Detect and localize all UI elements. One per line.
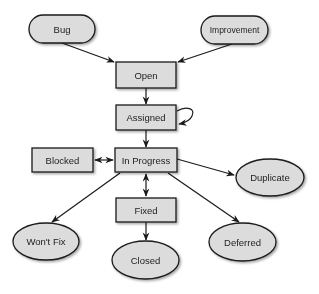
node-wont-fix: Won't Fix	[13, 223, 79, 260]
node-label-open: Open	[134, 70, 157, 81]
node-label-duplicate: Duplicate	[250, 172, 290, 183]
edge-bug-to-open	[62, 43, 114, 62]
node-label-in-progress: In Progress	[122, 155, 171, 166]
node-label-wont-fix: Won't Fix	[26, 236, 65, 247]
edge-in-progress-to-duplicate	[177, 159, 234, 175]
node-fixed: Fixed	[116, 198, 176, 222]
node-label-fixed: Fixed	[134, 205, 157, 216]
node-label-improvement: Improvement	[210, 25, 260, 35]
node-label-assigned: Assigned	[126, 112, 165, 123]
node-duplicate: Duplicate	[236, 159, 304, 196]
node-label-deferred: Deferred	[224, 237, 261, 248]
state-diagram: Bug Improvement Open Assigned Blocked In…	[0, 0, 319, 294]
node-improvement: Improvement	[201, 16, 268, 44]
edge-in-progress-to-deferred	[168, 173, 239, 222]
node-closed: Closed	[112, 241, 179, 279]
node-assigned: Assigned	[116, 105, 176, 130]
node-label-closed: Closed	[131, 255, 161, 266]
node-label-blocked: Blocked	[46, 155, 80, 166]
node-deferred: Deferred	[209, 223, 276, 261]
node-blocked: Blocked	[32, 148, 93, 172]
node-in-progress: In Progress	[115, 148, 177, 172]
node-label-bug: Bug	[54, 24, 71, 35]
edge-improvement-to-open	[178, 44, 232, 62]
edge-assigned-self-loop	[177, 108, 193, 124]
node-bug: Bug	[29, 15, 95, 43]
node-open: Open	[116, 62, 176, 88]
edge-in-progress-to-wont-fix	[52, 173, 120, 222]
